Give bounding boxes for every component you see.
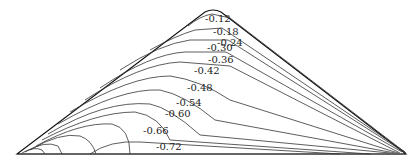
label-0-36: -0.36	[208, 54, 234, 65]
label-0-54: -0.54	[176, 97, 202, 108]
contour-diagram: -0.12 -0.18 -0.24 -0.30 -0.36 -0.42 -0.4…	[0, 0, 420, 168]
label-0-66: -0.66	[143, 125, 169, 136]
label-0-48: -0.48	[187, 82, 213, 93]
label-0-18: -0.18	[213, 26, 239, 37]
label-0-42: -0.42	[194, 65, 220, 76]
label-0-30: -0.30	[207, 42, 233, 53]
label-0-72: -0.72	[156, 141, 182, 152]
label-0-12: -0.12	[205, 13, 231, 24]
label-0-60: -0.60	[165, 108, 191, 119]
contour-labels: -0.12 -0.18 -0.24 -0.30 -0.36 -0.42 -0.4…	[143, 13, 243, 152]
